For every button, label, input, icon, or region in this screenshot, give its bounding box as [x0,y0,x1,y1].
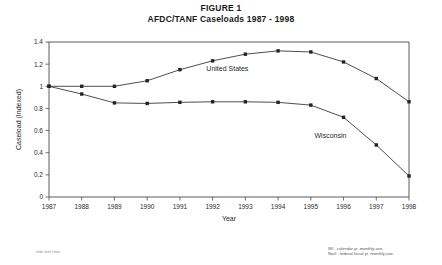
series-data-point [145,102,148,105]
footnote-national: Nat'l - federal fiscal yr. monthly ave. [328,251,394,256]
series-data-point [375,143,378,146]
series-data-point [342,60,345,63]
series-data-point [211,100,214,103]
series-line [49,86,409,176]
series-data-point [309,103,312,106]
y-axis-tick-label: 0.2 [34,171,43,178]
series-data-point [113,85,116,88]
y-axis-tick-label: 1.4 [34,38,43,45]
series-data-point [211,59,214,62]
y-axis-tick-label: 0.4 [34,149,43,156]
series-data-point [407,174,410,177]
series-data-point [113,101,116,104]
x-axis-tick-label: 1996 [336,203,351,210]
x-axis-tick-label: 1993 [238,203,253,210]
series-line [49,51,409,102]
series-data-point [244,100,247,103]
x-axis-tick-label: 1988 [74,203,89,210]
series-data-point [309,50,312,53]
x-axis-tick-label: 1994 [271,203,286,210]
x-axis-tick-label: 1987 [42,203,57,210]
x-axis-tick-label: 1995 [304,203,319,210]
series-data-point [178,68,181,71]
series-data-point [47,85,50,88]
x-axis-tick-label: 1992 [205,203,220,210]
series-label-wisconsin: Wisconsin [314,132,346,139]
x-axis-tick-label: 1989 [107,203,122,210]
y-axis-title: Caseload (Indexed) [15,89,23,150]
figure-root: FIGURE 1 AFDC/TANF Caseloads 1987 - 1998… [0,0,442,265]
series-label-united-states: United States [206,65,249,72]
y-axis-tick-label: 0 [39,193,43,200]
series-data-point [375,77,378,80]
series-data-point [80,92,83,95]
series-data-point [244,52,247,55]
series-data-point [80,85,83,88]
x-axis-tick-label: 1998 [402,203,417,210]
source-note: afdc-tanf.chart [36,250,60,254]
x-axis-tick-label: 1991 [173,203,188,210]
chart-footnotes: WI - calendar yr. monthly ave. Nat'l - f… [328,246,394,256]
y-axis-tick-label: 0.8 [34,105,43,112]
x-axis-tick-label: 1990 [140,203,155,210]
series-data-point [407,100,410,103]
x-axis-title: Year [222,215,237,222]
y-axis-tick-label: 1.2 [34,61,43,68]
series-data-point [178,101,181,104]
series-data-point [342,116,345,119]
y-axis-tick-label: 1 [39,83,43,90]
series-data-point [276,49,279,52]
line-chart: 00.20.40.60.811.21.419871988198919901991… [0,0,442,265]
series-data-point [276,101,279,104]
chart-area: 00.20.40.60.811.21.419871988198919901991… [0,0,442,265]
series-data-point [145,79,148,82]
y-axis-tick-label: 0.6 [34,127,43,134]
x-axis-tick-label: 1997 [369,203,384,210]
